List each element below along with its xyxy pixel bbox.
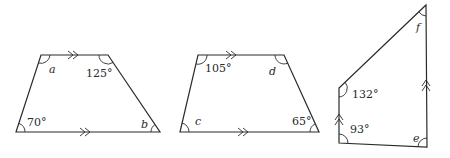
angle-arc-b bbox=[151, 125, 155, 133]
angle-label-65: 65° bbox=[292, 115, 312, 128]
angle-label-125: 125° bbox=[86, 67, 113, 80]
trapezium-3: f 132° 93° e bbox=[335, 5, 430, 147]
angle-arc-93 bbox=[339, 134, 348, 144]
angle-label-e: e bbox=[413, 132, 420, 145]
trapezium-figure: a 125° 70° b 105° d c 65° bbox=[0, 0, 450, 158]
angle-label-c: c bbox=[195, 115, 201, 128]
angle-label-f: f bbox=[415, 21, 422, 34]
angle-label-132: 132° bbox=[352, 88, 379, 101]
angle-label-d: d bbox=[269, 65, 276, 78]
angle-arc-f bbox=[419, 12, 426, 16]
angle-label-b: b bbox=[141, 118, 148, 131]
angle-arc-c bbox=[182, 123, 189, 132]
angle-label-105: 105° bbox=[205, 62, 232, 75]
trapezium-1: a 125° 70° b bbox=[16, 51, 160, 136]
angle-label-a: a bbox=[49, 63, 56, 76]
angle-label-93: 93° bbox=[350, 123, 370, 136]
angle-arc-70 bbox=[19, 124, 25, 133]
angle-label-70: 70° bbox=[27, 116, 47, 129]
trapezium-2: 105° d c 65° bbox=[180, 51, 319, 136]
